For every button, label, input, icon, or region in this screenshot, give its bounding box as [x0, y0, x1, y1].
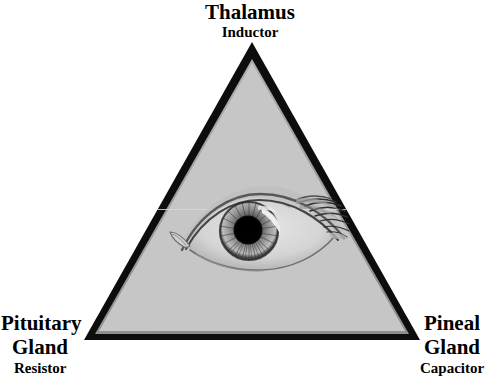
label-pituitary-name-line2: Gland: [1, 337, 81, 358]
label-thalamus-name: Thalamus: [0, 2, 500, 23]
label-pineal-name-line2: Gland: [420, 337, 484, 358]
label-thalamus-component: Inductor: [0, 25, 500, 40]
label-pineal-component: Capacitor: [420, 361, 484, 376]
label-pineal-gland: Pineal Gland Capacitor: [420, 313, 484, 376]
label-pituitary-gland: Pituitary Gland Resistor: [1, 313, 81, 376]
label-pituitary-component: Resistor: [1, 361, 81, 376]
label-pituitary-name-line1: Pituitary: [1, 313, 81, 334]
diagram-canvas: Thalamus Inductor Pituitary Gland Resist…: [0, 0, 500, 389]
label-pineal-name-line1: Pineal: [420, 313, 484, 334]
label-thalamus: Thalamus Inductor: [0, 2, 500, 40]
